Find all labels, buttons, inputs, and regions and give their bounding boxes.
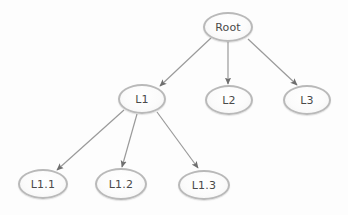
diagram-canvas: RootL1L2L3L1.1L1.2L1.3 (0, 0, 348, 215)
node-l2[interactable]: L2 (205, 85, 253, 115)
node-label-root: Root (215, 22, 241, 33)
edge-root-l1 (160, 38, 211, 86)
node-l3[interactable]: L3 (283, 85, 331, 115)
node-label-l1_1: L1.1 (31, 179, 55, 190)
node-l1[interactable]: L1 (118, 84, 166, 114)
edge-l1-l1_1 (57, 110, 124, 170)
node-l1_2[interactable]: L1.2 (95, 168, 147, 200)
node-l1_3[interactable]: L1.3 (178, 170, 230, 200)
node-label-l1_3: L1.3 (192, 180, 216, 191)
edge-l1-l1_3 (157, 112, 198, 168)
edge-l1-l1_2 (122, 114, 137, 167)
node-label-l1: L1 (135, 94, 149, 105)
node-label-l1_2: L1.2 (109, 179, 133, 190)
node-l1_1[interactable]: L1.1 (18, 169, 68, 199)
edge-root-l3 (248, 39, 297, 85)
node-label-l2: L2 (222, 95, 236, 106)
node-label-l3: L3 (300, 95, 314, 106)
node-root[interactable]: Root (203, 12, 253, 42)
